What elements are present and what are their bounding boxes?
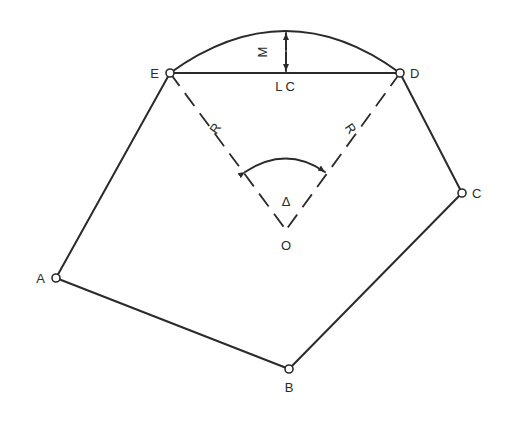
radius-left-label: R [206, 120, 224, 136]
point-C-label: C [472, 186, 481, 201]
point-B-label: B [285, 380, 294, 395]
point-E-label: E [150, 66, 159, 81]
radius-left-line [170, 73, 286, 230]
curve-diagram: M L C R R Δ E D C B A O [0, 0, 508, 421]
line-A-B [56, 278, 289, 369]
point-A-label: A [36, 271, 45, 286]
central-angle-arc [245, 159, 325, 173]
radius-right-label: R [342, 120, 360, 136]
line-B-C [289, 193, 462, 369]
line-C-D [400, 73, 462, 193]
point-D [396, 69, 404, 77]
point-D-label: D [410, 66, 419, 81]
center-O-label: O [281, 238, 291, 253]
middle-ordinate-label: M [255, 47, 270, 58]
point-A [52, 274, 60, 282]
central-angle-label: Δ [282, 194, 291, 209]
point-E [166, 69, 174, 77]
radius-right-line [286, 73, 400, 230]
long-chord-label: L C [275, 79, 295, 94]
point-B [285, 365, 293, 373]
point-C [458, 189, 466, 197]
line-E-A [56, 73, 170, 278]
